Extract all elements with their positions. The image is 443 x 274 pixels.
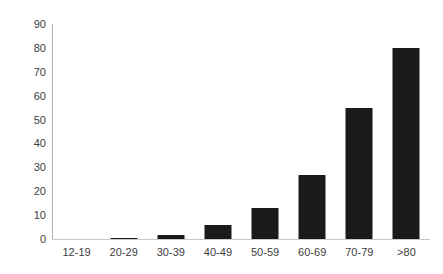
bar-chart: 9080706050403020100 12-1920-2930-3940-49… [0, 0, 443, 274]
bar-slot [100, 24, 147, 239]
bar [299, 175, 326, 240]
y-axis-tick-label: 0 [4, 234, 46, 245]
bar [157, 235, 184, 239]
y-axis-tick-label: 20 [4, 186, 46, 197]
y-axis-tick-label: 80 [4, 42, 46, 53]
bar [204, 225, 231, 239]
y-axis-tick-label: 70 [4, 66, 46, 77]
bar-slot [53, 24, 100, 239]
x-axis-tick-label: >80 [378, 247, 434, 258]
bar [252, 208, 279, 239]
bar-slot [289, 24, 336, 239]
y-axis-tick-label: 30 [4, 162, 46, 173]
y-axis-tick-label: 50 [4, 114, 46, 125]
bar [110, 238, 137, 239]
bar [393, 48, 420, 239]
bar [346, 108, 373, 239]
y-axis-tick-label: 10 [4, 210, 46, 221]
x-axis-line [52, 239, 430, 240]
bar-slot [194, 24, 241, 239]
bar-slot [336, 24, 383, 239]
plot-area [53, 24, 430, 239]
y-axis-tick-label: 90 [4, 19, 46, 30]
bar-slot [383, 24, 430, 239]
y-axis-tick-label: 60 [4, 90, 46, 101]
y-axis-tick-label: 40 [4, 138, 46, 149]
bar-slot [242, 24, 289, 239]
bar-slot [147, 24, 194, 239]
